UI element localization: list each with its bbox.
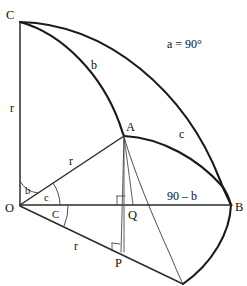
geometry-figure: C A O B Q P r r r b c a = 90° b c C 90 –…	[0, 0, 247, 286]
arc-B-lower-continuation	[183, 205, 231, 284]
geometry-canvas: C A O B Q P r r r b c a = 90° b c C 90 –…	[0, 0, 247, 286]
label-angle-90-minus-b: 90 – b	[167, 189, 197, 203]
label-angle-b: b	[25, 185, 30, 196]
label-arc-b: b	[91, 58, 97, 72]
vertex-label-C: C	[6, 8, 14, 22]
label-angle-c: c	[44, 192, 49, 203]
label-angle-C: C	[52, 209, 59, 220]
label-arc-c: c	[179, 127, 184, 141]
arc-b-CA	[20, 22, 124, 136]
vertex-label-P: P	[115, 256, 122, 270]
label-r-vertical: r	[10, 101, 14, 115]
vertex-label-B: B	[235, 200, 243, 214]
radius-OA	[20, 136, 124, 205]
label-r-oa: r	[69, 154, 73, 168]
label-arc-a-90deg: a = 90°	[167, 37, 202, 51]
angle-arc-c	[53, 183, 60, 205]
vertex-label-O: O	[5, 201, 14, 215]
vertex-label-A: A	[126, 120, 135, 134]
angle-arc-C	[64, 205, 68, 226]
segment-A-through-Q	[124, 137, 133, 205]
label-r-op: r	[74, 239, 78, 253]
vertex-label-Q: Q	[128, 208, 137, 222]
radius-OP-extended	[20, 206, 183, 284]
